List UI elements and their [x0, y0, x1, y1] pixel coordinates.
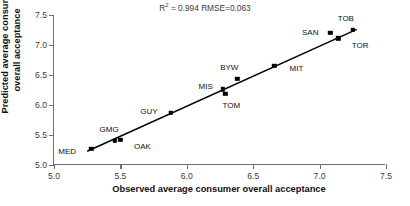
data-point-label: GUY — [140, 106, 157, 115]
data-point-label: MIT — [290, 64, 304, 73]
data-point-label: GMG — [100, 125, 119, 134]
data-point-marker — [118, 138, 122, 142]
y-tick-label: 6.0 — [35, 100, 47, 110]
x-tick-mark — [120, 164, 121, 169]
x-tick-mark — [54, 164, 55, 169]
x-tick-label: 5.0 — [48, 171, 60, 181]
x-tick-label: 7.5 — [380, 171, 392, 181]
x-tick-label: 5.5 — [114, 171, 126, 181]
data-point-marker — [223, 91, 227, 95]
x-axis-title: Observed average consumer overall accept… — [53, 184, 385, 194]
data-point-label: OAK — [134, 141, 151, 150]
data-point-label: SAN — [302, 28, 318, 37]
data-point-label: MIS — [199, 82, 213, 91]
data-point-label: TOM — [222, 100, 240, 109]
scatter-chart: R2 = 0.994 RMSE=0.063 5.05.56.06.57.07.5… — [0, 0, 410, 206]
y-axis-title-line1: Predicted average consumer — [0, 0, 10, 114]
y-axis-title-line2: overall acceptance — [12, 8, 22, 91]
data-point-marker — [169, 111, 173, 115]
y-tick-label: 6.5 — [35, 70, 47, 80]
data-point-marker — [272, 64, 276, 68]
plot-area: 5.05.56.06.57.07.55.05.56.06.57.07.5MEDG… — [53, 15, 385, 165]
data-point-label: MED — [58, 146, 76, 155]
data-point-marker — [328, 31, 332, 35]
statistics-annotation: R2 = 0.994 RMSE=0.063 — [0, 2, 410, 13]
r-squared-rmse-text: = 0.994 RMSE=0.063 — [169, 3, 251, 13]
x-tick-mark — [386, 164, 387, 169]
y-tick-label: 7.5 — [35, 10, 47, 20]
y-tick-mark — [49, 135, 54, 136]
x-tick-label: 6.5 — [247, 171, 259, 181]
x-tick-mark — [253, 164, 254, 169]
y-tick-mark — [49, 105, 54, 106]
data-point-marker — [235, 76, 239, 80]
y-tick-label: 5.0 — [35, 160, 47, 170]
x-tick-mark — [320, 164, 321, 169]
data-point-label: TOB — [338, 14, 354, 23]
x-tick-mark — [187, 164, 188, 169]
y-axis-title: Predicted average consumer overall accep… — [0, 0, 23, 125]
data-point-marker — [113, 139, 117, 143]
data-point-marker — [336, 36, 340, 40]
data-point-label: TOR — [352, 41, 369, 50]
data-point-marker — [351, 28, 355, 32]
x-tick-label: 6.0 — [181, 171, 193, 181]
y-tick-mark — [49, 15, 54, 16]
x-tick-label: 7.0 — [314, 171, 326, 181]
y-tick-label: 5.5 — [35, 130, 47, 140]
y-tick-label: 7.0 — [35, 40, 47, 50]
y-tick-mark — [49, 75, 54, 76]
data-point-label: BYW — [220, 62, 238, 71]
y-tick-mark — [49, 45, 54, 46]
data-point-marker — [89, 147, 93, 151]
